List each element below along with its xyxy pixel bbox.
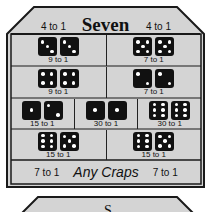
die-2-icon: [44, 101, 63, 120]
payout-odds: 9 to 1: [48, 88, 68, 96]
payout-odds: 30 to 1: [157, 120, 181, 128]
dice-pair: [86, 101, 127, 120]
die-6-icon: [171, 101, 190, 120]
payout-odds: 7 to 1: [144, 88, 164, 96]
seven-odds-right: 4 to 1: [146, 21, 171, 32]
any-craps-label: Any Craps: [73, 164, 138, 180]
dice-pair: [38, 37, 79, 56]
dice-pair: [133, 69, 174, 88]
seven-odds-left: 4 to 1: [41, 21, 66, 32]
hardway-bet-cell[interactable]: 30 to 1: [75, 99, 139, 129]
hardway-bet-cell[interactable]: 15 to 1: [107, 130, 202, 160]
bet-row: 15 to 130 to 130 to 1: [11, 99, 201, 129]
die-2-icon: [133, 69, 152, 88]
dice-pair: [38, 132, 79, 151]
bet-row: 9 to 17 to 1: [11, 35, 201, 66]
die-3-icon: [60, 37, 79, 56]
die-1-icon: [108, 101, 127, 120]
die-5-icon: [133, 37, 152, 56]
die-5-icon: [60, 132, 79, 151]
bet-row: 9 to 17 to 1: [11, 67, 201, 98]
die-6-icon: [149, 101, 168, 120]
hardway-bet-cell[interactable]: 7 to 1: [107, 67, 202, 98]
payout-odds: 15 to 1: [30, 120, 54, 128]
dice-pair: [149, 101, 190, 120]
payout-odds: 15 to 1: [142, 151, 166, 159]
dice-pair: [22, 101, 63, 120]
next-panel: S: [20, 196, 195, 212]
die-3-icon: [38, 37, 57, 56]
payout-odds: 30 to 1: [94, 120, 118, 128]
die-4-icon: [60, 69, 79, 88]
dice-pair: [133, 37, 174, 56]
hardway-bet-cell[interactable]: 9 to 1: [11, 35, 107, 66]
hardway-bet-cell[interactable]: 15 to 1: [11, 130, 107, 160]
die-2-icon: [155, 69, 174, 88]
any-craps-odds-left: 7 to 1: [34, 167, 59, 178]
any-craps-odds-right: 7 to 1: [153, 167, 178, 178]
any-craps-bet[interactable]: 7 to 1 Any Craps 7 to 1: [11, 160, 201, 184]
die-1-icon: [86, 101, 105, 120]
payout-odds: 7 to 1: [144, 56, 164, 64]
hardway-bet-cell[interactable]: 15 to 1: [11, 99, 75, 129]
dice-pair: [133, 132, 174, 151]
die-5-icon: [155, 132, 174, 151]
payout-odds: 9 to 1: [48, 56, 68, 64]
payout-odds: 15 to 1: [46, 151, 70, 159]
hardway-bet-cell[interactable]: 30 to 1: [138, 99, 201, 129]
seven-bet[interactable]: Seven: [6, 14, 205, 36]
die-6-icon: [38, 132, 57, 151]
die-6-icon: [133, 132, 152, 151]
proposition-bets-panel: Seven 4 to 1 4 to 1 9 to 17 to 19 to 17 …: [6, 6, 205, 188]
bet-row: 15 to 115 to 1: [11, 130, 201, 160]
die-4-icon: [38, 69, 57, 88]
hardway-bet-cell[interactable]: 9 to 1: [11, 67, 107, 98]
dice-pair: [38, 69, 79, 88]
seven-title: Seven: [82, 14, 130, 35]
die-5-icon: [155, 37, 174, 56]
die-1-icon: [22, 101, 41, 120]
svg-text:S: S: [104, 203, 112, 212]
hardway-bet-cell[interactable]: 7 to 1: [107, 35, 202, 66]
